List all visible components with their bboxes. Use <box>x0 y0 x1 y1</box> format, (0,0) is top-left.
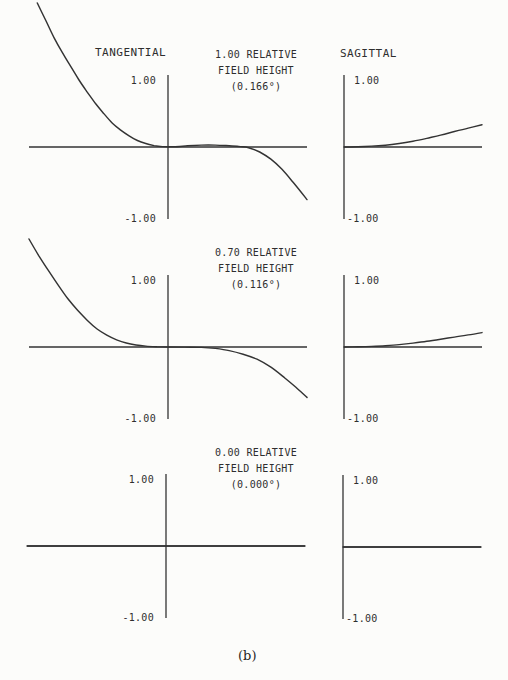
field-height-block-3: 0.00 RELATIVE FIELD HEIGHT (0.000°) <box>185 445 327 493</box>
field-height-caption: FIELD HEIGHT <box>185 63 327 79</box>
figure-caption: (b) <box>238 648 256 663</box>
field-height-value: 0.00 RELATIVE <box>185 445 327 461</box>
sagittal-field-0p70-bottom-tick-label: -1.00 <box>347 413 379 424</box>
sagittal-field-0p70-top-tick-label: 1.00 <box>354 275 379 286</box>
field-angle: (0.116°) <box>185 277 327 293</box>
field-angle: (0.166°) <box>185 79 327 95</box>
tangential-column-label: TANGENTIAL <box>95 46 166 60</box>
tangential-field-0p00: 1.00-1.00 <box>27 474 305 623</box>
tangential-field-1p00: 1.00-1.00 <box>29 3 307 224</box>
sagittal-field-0p70-curve <box>344 333 482 347</box>
tangential-field-1p00-bottom-tick-label: -1.00 <box>124 213 156 224</box>
field-height-caption: FIELD HEIGHT <box>185 261 327 277</box>
sagittal-field-0p00-bottom-tick-label: -1.00 <box>346 613 378 624</box>
sagittal-field-0p00: 1.00-1.00 <box>343 475 481 624</box>
field-height-value: 1.00 RELATIVE <box>185 47 327 63</box>
tangential-field-0p70-top-tick-label: 1.00 <box>131 275 156 286</box>
sagittal-column-label: SAGITTAL <box>340 47 397 61</box>
field-height-caption: FIELD HEIGHT <box>185 461 327 477</box>
tangential-field-0p00-bottom-tick-label: -1.00 <box>122 612 154 623</box>
tangential-field-0p70-bottom-tick-label: -1.00 <box>124 413 156 424</box>
sagittal-field-1p00: 1.00-1.00 <box>344 75 482 224</box>
tangential-field-0p00-top-tick-label: 1.00 <box>129 474 154 485</box>
sagittal-field-0p70: 1.00-1.00 <box>344 275 482 424</box>
plots-canvas: 1.00-1.001.00-1.001.00-1.001.00-1.001.00… <box>0 0 508 680</box>
field-height-block-2: 0.70 RELATIVE FIELD HEIGHT (0.116°) <box>185 245 327 293</box>
field-height-block-1: 1.00 RELATIVE FIELD HEIGHT (0.166°) <box>185 47 327 95</box>
field-angle: (0.000°) <box>185 477 327 493</box>
sagittal-field-1p00-bottom-tick-label: -1.00 <box>347 213 379 224</box>
field-height-value: 0.70 RELATIVE <box>185 245 327 261</box>
sagittal-field-1p00-curve <box>344 125 482 147</box>
sagittal-field-1p00-top-tick-label: 1.00 <box>354 75 379 86</box>
ray-aberration-figure: 1.00-1.001.00-1.001.00-1.001.00-1.001.00… <box>0 0 508 680</box>
tangential-field-1p00-curve <box>37 3 307 200</box>
tangential-field-1p00-top-tick-label: 1.00 <box>131 75 156 86</box>
sagittal-field-0p00-top-tick-label: 1.00 <box>353 475 378 486</box>
